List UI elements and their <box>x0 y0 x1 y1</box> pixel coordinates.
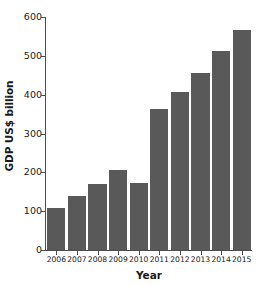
x-tick-mark <box>159 251 160 255</box>
y-tick-mark <box>41 211 45 212</box>
x-axis-title: Year <box>46 269 252 281</box>
bar <box>212 51 230 250</box>
y-tick-mark <box>41 172 45 173</box>
bar <box>150 109 168 250</box>
x-tick-mark <box>221 251 222 255</box>
y-tick-label: 200 <box>16 168 42 178</box>
y-axis-title-text: GDP US$ billion <box>3 81 15 172</box>
x-tick-mark <box>139 251 140 255</box>
x-tick-mark <box>201 251 202 255</box>
bar <box>233 30 251 250</box>
x-tick-mark <box>98 251 99 255</box>
x-tick-mark <box>77 251 78 255</box>
x-axis-tick-labels: 2006200720082009201020112012201320142015 <box>46 256 252 268</box>
y-axis-tick-labels: 0100200300400500600 <box>16 17 42 250</box>
y-tick-label: 100 <box>16 206 42 216</box>
x-tick-mark <box>118 251 119 255</box>
x-tick-mark <box>242 251 243 255</box>
y-tick-mark <box>41 134 45 135</box>
y-tick-mark <box>41 250 45 251</box>
bar <box>130 183 148 250</box>
y-tick-mark <box>41 95 45 96</box>
bar <box>109 170 127 250</box>
y-tick-label: 500 <box>16 51 42 61</box>
y-tick-mark <box>41 56 45 57</box>
bar <box>191 73 209 250</box>
y-tick-mark <box>41 17 45 18</box>
bar <box>171 92 189 250</box>
plot-area <box>46 17 252 250</box>
y-tick-label: 300 <box>16 129 42 139</box>
y-tick-label: 600 <box>16 12 42 22</box>
x-tick-mark <box>56 251 57 255</box>
y-tick-label: 400 <box>16 90 42 100</box>
bar-chart-figure: GDP US$ billion 0100200300400500600 2006… <box>0 0 263 286</box>
y-tick-label: 0 <box>16 245 42 255</box>
x-tick-mark <box>180 251 181 255</box>
bar <box>47 208 65 250</box>
bar <box>88 184 106 250</box>
bar <box>68 196 86 250</box>
x-tick-label: 2015 <box>230 256 254 264</box>
